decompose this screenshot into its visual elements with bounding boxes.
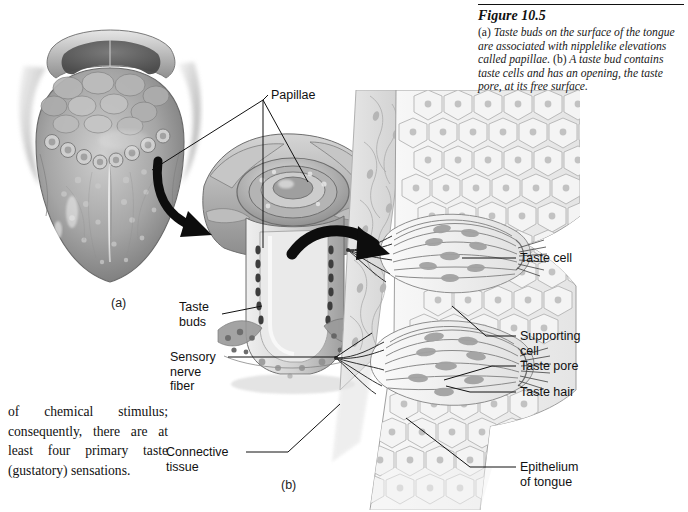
label-taste-pore: Taste pore bbox=[520, 359, 578, 374]
figure-title: Figure 10.5 bbox=[478, 8, 688, 24]
figure-rule bbox=[478, 4, 684, 5]
figure-canvas: Papillae Taste buds Sensory nerve fiber … bbox=[0, 0, 688, 512]
panel-label-b: (b) bbox=[281, 478, 296, 492]
panel-label-a: (a) bbox=[111, 296, 126, 310]
label-taste-cell: Taste cell bbox=[520, 251, 572, 266]
body-paragraph: of chemical stimulus; consequently, ther… bbox=[8, 402, 168, 480]
label-epithelium-of-tongue: Epithelium of tongue bbox=[520, 460, 578, 489]
label-papillae: Papillae bbox=[271, 88, 315, 103]
caption-marker-a: (a) bbox=[478, 26, 491, 39]
figure-caption: (a) Taste buds on the surface of the ton… bbox=[478, 26, 686, 94]
caption-marker-b: (b) bbox=[553, 53, 567, 66]
label-taste-hair: Taste hair bbox=[520, 385, 574, 400]
label-connective-tissue: Connective tissue bbox=[166, 445, 229, 474]
label-supporting-cell: Supporting cell bbox=[520, 329, 580, 358]
label-taste-buds: Taste buds bbox=[179, 300, 209, 329]
label-sensory-nerve-fiber: Sensory nerve fiber bbox=[170, 350, 216, 394]
